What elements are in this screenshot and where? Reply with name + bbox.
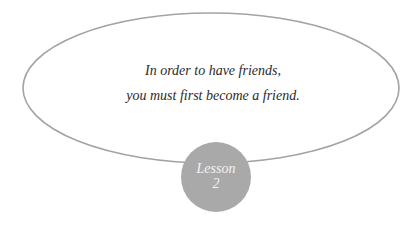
diagram-canvas: [0, 0, 420, 230]
lesson-label: Lesson: [181, 161, 251, 176]
quote-text: In order to have friends, you must first…: [0, 58, 420, 108]
lesson-number: 2: [181, 176, 251, 191]
lesson-badge: Lesson 2: [181, 161, 251, 191]
quote-line-1: In order to have friends,: [0, 58, 420, 83]
quote-line-2: you must first become a friend.: [0, 83, 420, 108]
